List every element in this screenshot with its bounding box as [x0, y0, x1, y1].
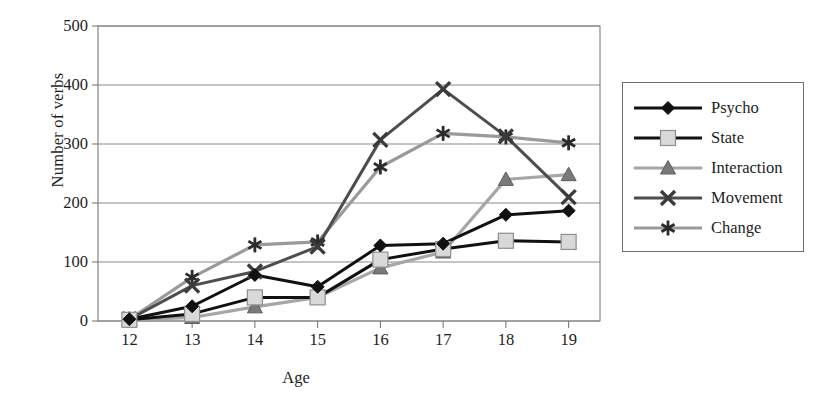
- y-tick-label: 400: [32, 75, 88, 95]
- legend-label: Psycho: [711, 100, 759, 117]
- legend-item-movement[interactable]: Movement: [631, 185, 783, 211]
- legend-label: Interaction: [711, 160, 782, 177]
- x-axis-title-outer: Age: [0, 368, 822, 388]
- legend-swatch-asterisk-icon: [631, 217, 705, 239]
- legend-swatch-diamond-icon: [631, 97, 705, 119]
- plot-border: [98, 26, 600, 321]
- x-axis-title: Age: [282, 368, 310, 388]
- x-tick-label: 15: [295, 330, 341, 350]
- legend-label: Change: [711, 220, 761, 237]
- x-tick-label: 18: [483, 330, 529, 350]
- legend: PsychoStateInteractionMovementChange: [622, 82, 804, 252]
- marker-diamond: [662, 102, 675, 115]
- x-tick-label: 14: [232, 330, 278, 350]
- x-tick-label: 13: [169, 330, 215, 350]
- legend-key-psycho: [631, 97, 705, 119]
- legend-key-interaction: [631, 157, 705, 179]
- x-tick-label: 12: [106, 330, 152, 350]
- marker-square: [561, 234, 576, 249]
- legend-key-movement: [631, 187, 705, 209]
- legend-swatch-triangle-icon: [631, 157, 705, 179]
- marker-square: [373, 252, 388, 267]
- legend-item-interaction[interactable]: Interaction: [631, 155, 782, 181]
- marker-square: [247, 290, 262, 305]
- x-tick-label: 19: [546, 330, 592, 350]
- legend-swatch-square-icon: [631, 127, 705, 149]
- legend-item-state[interactable]: State: [631, 125, 744, 151]
- legend-item-change[interactable]: Change: [631, 215, 761, 241]
- legend-label: Movement: [711, 190, 783, 207]
- marker-square: [661, 131, 676, 146]
- y-tick-label: 0: [32, 311, 88, 331]
- marker-square: [498, 233, 513, 248]
- legend-swatch-cross-icon: [631, 187, 705, 209]
- legend-label: State: [711, 130, 744, 147]
- legend-key-state: [631, 127, 705, 149]
- x-tick-label: 16: [357, 330, 403, 350]
- legend-item-psycho[interactable]: Psycho: [631, 95, 759, 121]
- chart-root: Number of verbs 0100200300400500 1213141…: [0, 0, 822, 399]
- y-tick-label: 500: [32, 16, 88, 36]
- y-tick-label: 100: [32, 252, 88, 272]
- legend-key-change: [631, 217, 705, 239]
- y-tick-label: 300: [32, 134, 88, 154]
- y-tick-label: 200: [32, 193, 88, 213]
- x-tick-label: 17: [420, 330, 466, 350]
